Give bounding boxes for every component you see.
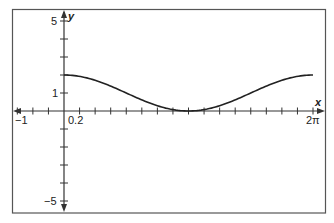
y-axis-label: y [67, 10, 75, 22]
function-graph: y x 5 1 −5 −1 0.2 2π [0, 0, 334, 223]
x-tick-label-0-2: 0.2 [68, 114, 83, 126]
y-tick-label-neg5: −5 [44, 195, 57, 207]
y-tick-label-1: 1 [52, 87, 58, 99]
x-tick-label-neg1: −1 [15, 114, 28, 126]
y-tick-label-5: 5 [51, 15, 57, 27]
x-tick-label-2pi: 2π [306, 114, 320, 126]
x-axis-label: x [314, 96, 322, 108]
